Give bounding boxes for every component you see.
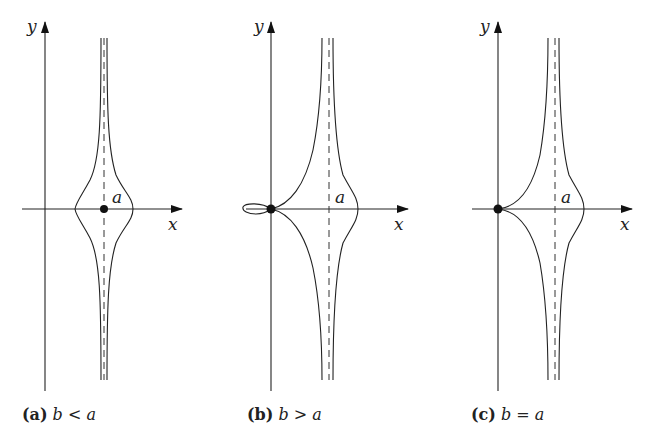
- x-axis-label: x: [620, 214, 630, 234]
- marked-point-dot: [100, 205, 108, 213]
- caption-c: (c) b = a: [471, 405, 544, 424]
- x-axis-label: x: [168, 214, 178, 234]
- panel-a-plot: y x a: [22, 16, 182, 391]
- point-a-label: a: [561, 187, 571, 207]
- caption-condition: b > a: [278, 405, 321, 424]
- panel-c-plot: y x a: [472, 16, 632, 391]
- point-a-label: a: [112, 187, 122, 207]
- caption-a: (a) b < a: [22, 405, 96, 424]
- y-axis-label: y: [479, 16, 490, 36]
- panel-b-plot: y x a: [243, 16, 408, 391]
- x-axis-label: x: [394, 214, 404, 234]
- point-a-label: a: [335, 187, 345, 207]
- marked-point-dot: [494, 205, 503, 214]
- caption-tag: (c): [471, 405, 496, 424]
- marked-point-dot: [267, 205, 276, 214]
- caption-tag: (b): [247, 405, 273, 424]
- caption-condition: b = a: [501, 405, 544, 424]
- caption-b: (b) b > a: [247, 405, 322, 424]
- y-axis-label: y: [26, 16, 37, 36]
- y-axis-label: y: [253, 16, 264, 36]
- caption-condition: b < a: [53, 405, 96, 424]
- figure-canvas: y x a y x a y x a: [0, 0, 656, 446]
- caption-tag: (a): [22, 405, 48, 424]
